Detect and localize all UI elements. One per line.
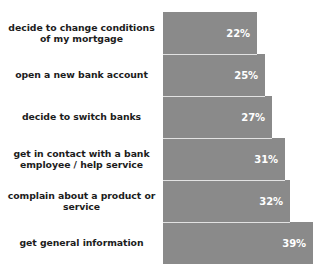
- chart-row: decide to switch banks 27%: [0, 96, 330, 138]
- bar-category-label: complain about a product or service: [2, 180, 161, 222]
- bar-segment: 25%: [163, 54, 265, 96]
- bar-category-label: decide to change conditions of my mortga…: [2, 12, 161, 54]
- chart-row: get general information 39%: [0, 222, 330, 264]
- bar-separator: [163, 180, 285, 181]
- bar-category-label: decide to switch banks: [2, 96, 161, 138]
- bar-separator: [163, 138, 272, 139]
- bar-segment: 22%: [163, 12, 257, 54]
- bar-value-label: 22%: [226, 28, 257, 39]
- horizontal-bar-chart: decide to change conditions of my mortga…: [0, 0, 330, 280]
- bar-value-label: 32%: [259, 196, 290, 207]
- bar-value-label: 39%: [282, 238, 313, 249]
- bar-value-label: 27%: [241, 112, 272, 123]
- bar-category-label: open a new bank account: [2, 54, 161, 96]
- bar-segment: 27%: [163, 96, 272, 138]
- chart-row: open a new bank account 25%: [0, 54, 330, 96]
- bar-category-label: get in contact with a bank employee / he…: [2, 138, 161, 180]
- bar-segment: 39%: [163, 222, 313, 264]
- chart-row: get in contact with a bank employee / he…: [0, 138, 330, 180]
- bar-value-label: 31%: [254, 154, 285, 165]
- bar-separator: [163, 54, 257, 55]
- bar-separator: [163, 96, 265, 97]
- bar-separator: [163, 222, 290, 223]
- bar-category-label: get general information: [2, 222, 161, 264]
- chart-row: complain about a product or service 32%: [0, 180, 330, 222]
- bar-segment: 31%: [163, 138, 285, 180]
- bar-value-label: 25%: [234, 70, 265, 81]
- chart-row: decide to change conditions of my mortga…: [0, 12, 330, 54]
- bar-segment: 32%: [163, 180, 290, 222]
